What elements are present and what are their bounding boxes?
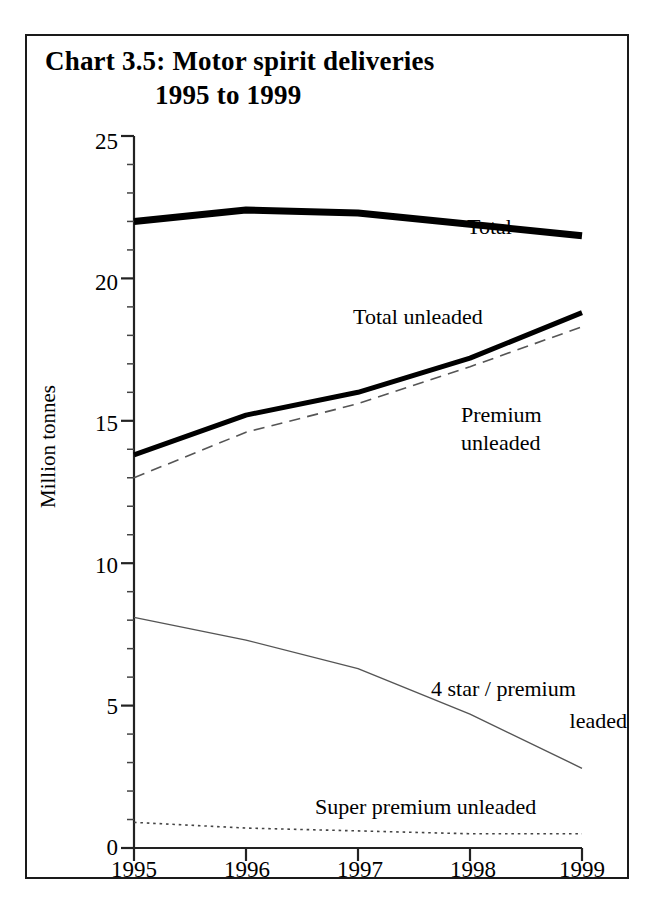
series-annotation-super-premium-unleaded: Super premium unleaded bbox=[315, 794, 536, 820]
axes-group bbox=[121, 136, 582, 861]
chart-plot-svg bbox=[27, 36, 631, 881]
chart-figure: Chart 3.5: Motor spirit deliveries 1995 … bbox=[25, 34, 629, 879]
series-annotation-total-unleaded: Total unleaded bbox=[353, 304, 483, 330]
plot-area: Million tonnes 25 20 15 10 5 0 1995 1996… bbox=[27, 36, 627, 877]
series-annotation-premium-unleaded-line2: unleaded bbox=[461, 430, 540, 456]
series-annotation-leaded-line2: leaded bbox=[431, 708, 627, 734]
y-major-ticks bbox=[121, 136, 134, 848]
series-line-super-premium-unleaded bbox=[134, 822, 582, 833]
series-line-total bbox=[134, 210, 582, 236]
x-major-ticks bbox=[134, 848, 582, 861]
series-annotation-premium-unleaded-line1: Premium bbox=[461, 402, 542, 428]
series-annotation-total: Total bbox=[467, 214, 512, 240]
series-annotation-leaded-line1: 4 star / premium bbox=[431, 676, 576, 702]
